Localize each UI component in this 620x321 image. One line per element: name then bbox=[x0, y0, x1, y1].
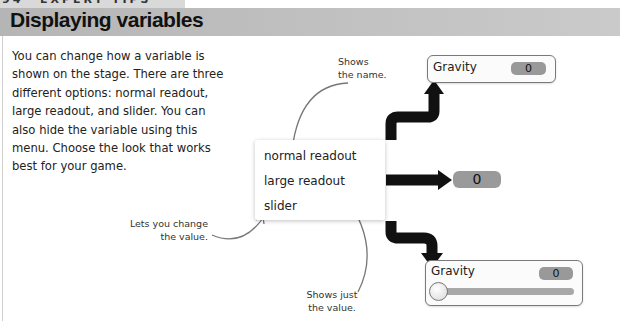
menu-item-normal-readout[interactable]: normal readout bbox=[264, 149, 357, 163]
annotation-line-slider bbox=[212, 218, 263, 239]
normal-readout-monitor[interactable]: Gravity 0 bbox=[427, 55, 556, 83]
annotation-line-1: Shows just bbox=[302, 289, 362, 302]
readout-label: Gravity bbox=[433, 60, 477, 74]
slider-track[interactable] bbox=[436, 288, 574, 295]
menu-item-slider[interactable]: slider bbox=[264, 199, 297, 213]
readout-label: Gravity bbox=[431, 264, 475, 278]
annotation-line-2: the value. bbox=[302, 302, 362, 315]
slider-readout-monitor[interactable]: Gravity 0 bbox=[425, 260, 583, 306]
connector-arrows bbox=[386, 92, 440, 256]
slider-knob[interactable] bbox=[429, 282, 448, 301]
menu-item-large-readout[interactable]: large readout bbox=[264, 174, 345, 188]
annotation-line-2: the name. bbox=[338, 69, 387, 82]
annotation-lets-change: Lets you change the value. bbox=[128, 218, 208, 243]
readout-value: 0 bbox=[511, 62, 546, 75]
annotation-shows-name: Shows the name. bbox=[338, 56, 387, 81]
annotation-shows-value: Shows just the value. bbox=[302, 289, 362, 314]
variable-display-menu: normal readout large readout slider bbox=[255, 140, 385, 220]
readout-value: 0 bbox=[539, 267, 573, 280]
annotation-line-2: the value. bbox=[128, 231, 208, 244]
large-readout-monitor[interactable]: 0 bbox=[453, 171, 501, 188]
annotation-line-1: Lets you change bbox=[128, 218, 208, 231]
annotation-line-1: Shows bbox=[338, 56, 387, 69]
arrow-head-right bbox=[438, 170, 452, 190]
